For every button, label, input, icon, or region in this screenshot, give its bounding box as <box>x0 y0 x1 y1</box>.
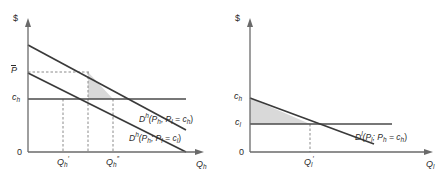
origin-label-left: 0 <box>17 148 22 157</box>
y-tick-cl-r-base: c <box>235 117 240 127</box>
clabel-d1-midsub: l <box>171 118 172 125</box>
y-axis-title-right: $ <box>235 14 240 23</box>
y-tick-ch-r-base: c <box>234 91 239 101</box>
high-type-demand-panel: $ 0 P ch Qh′ Qh″ Qh Dh(Ph; Pl = ch) Dh(P… <box>0 0 222 184</box>
x-axis-title-left: Qh <box>196 160 207 169</box>
x-tick-q-l-prime: Ql′ <box>304 158 314 167</box>
x-tick-q-h-dp-sub: h <box>113 161 117 168</box>
clabel-dl-mid: ; P <box>373 132 383 142</box>
y-tick-p-bar: P <box>11 66 17 75</box>
right-panel-plot <box>222 0 444 184</box>
clabel-d1-eq: = c <box>173 114 187 124</box>
clabel-dl-argsub: l <box>371 136 372 143</box>
curve-label-demand-high-cl: Dh(Ph; Pl = cl) <box>129 134 181 143</box>
x-tick-q-h-prime-sup: ′ <box>68 155 69 162</box>
x-tick-q-h-double-prime: Qh″ <box>106 158 119 167</box>
y-tick-p-bar-text: P <box>11 65 17 75</box>
welfare-triangle-left <box>88 72 113 99</box>
clabel-dl-args: (P <box>363 132 372 142</box>
clabel-d1-close: ) <box>190 114 193 124</box>
low-type-demand-panel: $ 0 ch cl Ql′ Ql Dl(Pl; Ph = ch) <box>222 0 444 184</box>
clabel-d2-sup: h <box>135 131 139 138</box>
y-tick-ch-r-sub: h <box>239 95 243 102</box>
clabel-d2-eq: = c <box>163 133 177 143</box>
x-axis-arrowhead-right <box>424 149 433 155</box>
clabel-dl-close: ) <box>404 132 407 142</box>
y-axis-arrowhead-right <box>247 18 253 27</box>
clabel-dl-sup: l <box>361 130 362 137</box>
x-tick-q-h-prime-sub: h <box>64 161 68 168</box>
x-axis-arrowhead-left <box>195 149 204 155</box>
y-axis-title-left: $ <box>13 14 18 23</box>
clabel-d1-sup: h <box>145 112 149 119</box>
x-axis-title-left-base: Q <box>196 159 203 169</box>
x-tick-ql-sub: l <box>311 161 312 168</box>
y-tick-c-h-sub: h <box>17 96 21 103</box>
x-tick-q-h-prime-base: Q <box>57 157 64 167</box>
x-axis-title-left-sub: h <box>203 163 207 170</box>
x-axis-title-right-sub: l <box>433 163 434 170</box>
y-tick-c-h: ch <box>12 93 20 102</box>
x-tick-ql-base: Q <box>304 157 311 167</box>
clabel-dl-eqsub: h <box>401 136 405 143</box>
curve-label-demand-low: Dl(Pl; Ph = ch) <box>355 133 407 142</box>
y-tick-c-h-right: ch <box>234 92 242 101</box>
clabel-d1-args: (P <box>149 114 158 124</box>
clabel-d2-close: ) <box>178 133 181 143</box>
y-axis-arrowhead-left <box>25 18 31 27</box>
economics-demand-figure: $ 0 P ch Qh′ Qh″ Qh Dh(Ph; Pl = ch) Dh(P… <box>0 0 445 184</box>
origin-label-right: 0 <box>239 148 244 157</box>
x-tick-q-h-dp-sup: ″ <box>117 155 119 162</box>
x-axis-title-right-base: Q <box>426 159 433 169</box>
x-axis-title-right: Ql <box>426 160 434 169</box>
clabel-d1-mid: ; P <box>161 114 171 124</box>
clabel-d1-argsub: h <box>157 118 161 125</box>
x-tick-q-h-dp-base: Q <box>106 157 113 167</box>
clabel-d2-midsub: l <box>161 137 162 144</box>
clabel-d2-args: (P <box>139 133 148 143</box>
y-tick-c-l-right: cl <box>235 118 241 127</box>
y-tick-c-h-base: c <box>12 92 17 102</box>
x-tick-q-h-prime: Qh′ <box>57 158 69 167</box>
x-tick-ql-sup: ′ <box>312 155 313 162</box>
clabel-dl-midsub: h <box>383 136 387 143</box>
clabel-dl-eq: = c <box>387 132 401 142</box>
clabel-d2-argsub: h <box>147 137 151 144</box>
clabel-d1-eqsub: h <box>187 118 191 125</box>
clabel-d2-eqsub: l <box>177 137 178 144</box>
y-tick-cl-r-sub: l <box>240 121 241 128</box>
clabel-d2-mid: ; P <box>151 133 161 143</box>
curve-label-demand-high-ch: Dh(Ph; Pl = ch) <box>139 115 193 124</box>
